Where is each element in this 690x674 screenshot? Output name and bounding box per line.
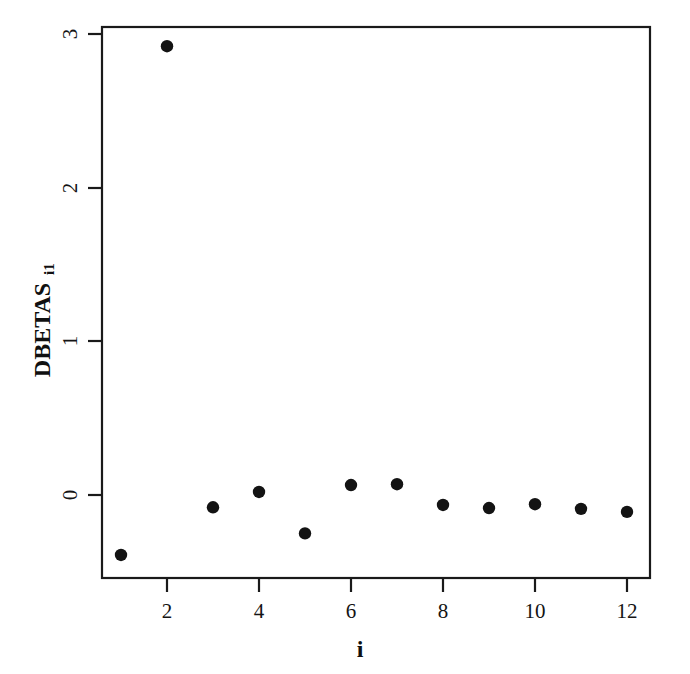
- y-axis-title-subscript: i1: [41, 263, 57, 275]
- y-axis-title: DBETAS i1: [29, 263, 57, 377]
- y-axis-ticks: [88, 34, 102, 495]
- x-tick-label-10: 10: [525, 599, 546, 623]
- data-point: [115, 549, 127, 561]
- y-tick-label-1: 1: [58, 336, 82, 347]
- data-point: [253, 486, 265, 498]
- x-axis-title: i: [357, 636, 364, 662]
- data-point: [161, 40, 173, 52]
- data-point: [345, 479, 357, 491]
- data-point: [391, 478, 403, 490]
- data-point: [575, 503, 587, 515]
- x-axis-tick-labels: 2 4 6 8 10 12: [162, 599, 638, 623]
- y-tick-label-0: 0: [58, 490, 82, 501]
- scatter-plot: 0 1 2 3 2 4 6 8 10 12 DBETAS i1: [0, 0, 690, 674]
- data-point: [437, 499, 449, 511]
- figure-canvas: 0 1 2 3 2 4 6 8 10 12 DBETAS i1: [0, 0, 690, 674]
- y-axis-title-main: DBETAS: [29, 283, 55, 377]
- y-tick-label-3: 3: [58, 29, 82, 40]
- data-point: [621, 506, 633, 518]
- x-tick-label-4: 4: [254, 599, 265, 623]
- x-axis-ticks: [167, 578, 627, 592]
- x-tick-label-2: 2: [162, 599, 173, 623]
- y-axis-tick-labels: 0 1 2 3: [58, 29, 82, 501]
- x-tick-label-8: 8: [438, 599, 449, 623]
- data-point-series: [115, 40, 633, 561]
- data-point: [299, 527, 311, 539]
- data-point: [207, 501, 219, 513]
- data-point: [529, 498, 541, 510]
- data-point: [483, 502, 495, 514]
- x-tick-label-12: 12: [617, 599, 638, 623]
- plot-frame: [102, 27, 650, 578]
- x-tick-label-6: 6: [346, 599, 357, 623]
- y-tick-label-2: 2: [58, 183, 82, 194]
